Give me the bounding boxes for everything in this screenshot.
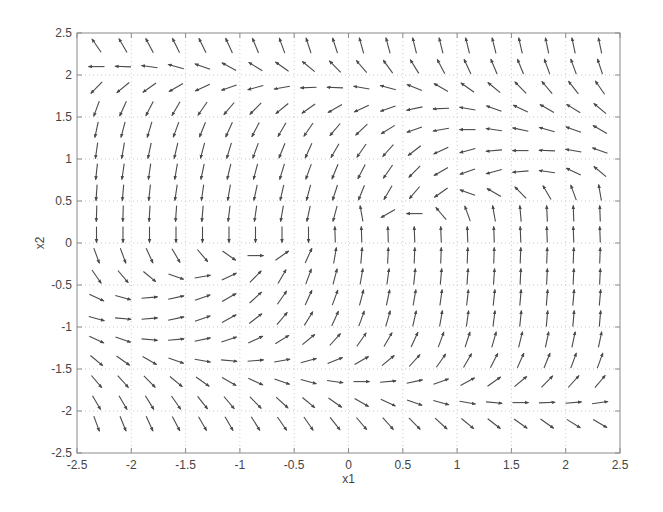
vector-arrow	[513, 128, 529, 131]
vector-arrow	[594, 167, 606, 177]
x-tick-label: -1	[235, 458, 246, 472]
vector-arrow	[251, 417, 259, 431]
vector-arrow	[487, 106, 502, 111]
vector-arrow	[407, 127, 422, 132]
vector-arrow	[306, 269, 312, 284]
vector-arrow	[89, 336, 104, 343]
vector-arrow	[197, 250, 207, 262]
vector-arrow	[307, 206, 310, 222]
vector-arrow	[433, 128, 449, 131]
vector-arrow	[388, 248, 389, 264]
vector-arrow	[600, 269, 601, 285]
x-tick-label: 1	[454, 458, 461, 472]
vector-arrow	[381, 399, 396, 406]
vector-arrow	[120, 248, 126, 263]
vector-arrow	[386, 311, 390, 326]
vector-arrow	[493, 206, 496, 222]
vector-arrow	[115, 66, 131, 67]
vector-arrow	[250, 271, 261, 282]
vector-arrow	[381, 210, 395, 218]
vector-arrow	[547, 269, 548, 285]
vector-arrow	[387, 269, 389, 285]
vector-arrow	[437, 60, 445, 74]
x-tick-labels: -2.5-2-1.5-1-0.500.511.522.5	[67, 458, 629, 472]
vector-arrow	[460, 190, 475, 195]
vector-arrow	[196, 377, 209, 386]
vector-arrow	[301, 87, 317, 88]
vector-arrow	[519, 332, 523, 348]
vector-arrow	[117, 356, 130, 365]
vector-arrow	[330, 417, 340, 430]
vector-arrow	[227, 143, 232, 158]
vector-arrow	[332, 311, 339, 326]
vector-arrow	[546, 311, 547, 327]
vector-arrow	[276, 397, 288, 408]
vector-arrow	[486, 150, 502, 151]
vector-arrow	[335, 227, 336, 243]
vector-arrow	[519, 38, 523, 54]
vector-arrow	[494, 269, 495, 285]
y-tick-label: 2	[65, 68, 72, 82]
vector-arrow	[513, 105, 528, 112]
vector-arrow	[464, 59, 471, 74]
vector-arrow	[467, 290, 469, 306]
vector-arrow	[545, 332, 548, 348]
vector-arrow	[544, 59, 550, 74]
vector-arrow	[304, 312, 313, 326]
vector-arrow	[302, 398, 314, 408]
vector-arrow	[281, 206, 284, 222]
vector-arrow	[520, 206, 521, 222]
vector-arrow	[546, 290, 547, 306]
vector-arrow	[304, 123, 313, 136]
vector-arrow	[120, 101, 127, 116]
vector-arrow	[142, 318, 158, 319]
vector-arrow	[414, 248, 415, 264]
vector-arrow	[409, 187, 419, 199]
vector-arrow	[520, 269, 521, 285]
vector-arrow	[142, 297, 158, 298]
vector-arrow	[566, 127, 581, 132]
vector-arrow	[486, 402, 502, 403]
vector-arrow	[222, 273, 237, 280]
vector-arrow	[224, 397, 234, 409]
vector-arrow	[226, 122, 233, 137]
vector-arrow	[277, 291, 286, 304]
vector-arrow	[328, 358, 343, 364]
vector-arrow	[201, 143, 205, 158]
vector-arrow	[221, 360, 237, 361]
vector-arrow	[222, 85, 237, 90]
vector-arrow	[250, 103, 261, 114]
vector-arrow	[172, 417, 180, 431]
vector-arrow	[358, 165, 365, 179]
vector-arrow	[355, 357, 369, 365]
vector-arrow	[434, 168, 448, 176]
vector-arrow	[520, 311, 522, 327]
vector-arrow	[414, 269, 416, 285]
y-tick-label: 2.5	[55, 26, 72, 40]
vector-arrow	[173, 122, 179, 137]
vector-arrow	[175, 185, 177, 201]
vector-arrow	[383, 165, 392, 178]
vector-arrow	[274, 86, 290, 89]
y-tick-label: 1.5	[55, 110, 72, 124]
vector-arrow	[96, 164, 98, 180]
vector-arrow	[494, 248, 495, 264]
vector-arrow	[142, 339, 158, 340]
vector-arrow	[360, 290, 364, 305]
vector-arrow	[334, 248, 337, 264]
vector-arrow	[359, 311, 365, 326]
vector-arrow	[169, 358, 184, 363]
vector-arrow	[466, 311, 468, 327]
vector-arrow	[487, 189, 501, 197]
vector-arrow	[96, 206, 97, 222]
vector-arrow	[467, 248, 468, 264]
vector-arrow	[407, 107, 423, 110]
vector-arrow	[571, 185, 577, 200]
vector-arrow	[438, 332, 444, 347]
x-tick-label: 0.5	[394, 458, 411, 472]
vector-arrow	[356, 418, 366, 430]
vector-arrow	[383, 60, 392, 73]
vector-arrow	[514, 377, 526, 387]
vector-arrow	[198, 102, 207, 115]
vector-arrow	[274, 359, 290, 362]
